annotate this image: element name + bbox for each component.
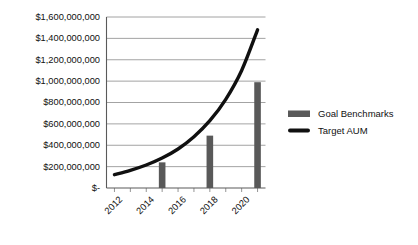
y-axis-tick-label: $1,200,000,000 (35, 55, 100, 65)
legend-line-swatch (288, 129, 310, 133)
legend-label-goal-benchmarks: Goal Benchmarks (318, 108, 394, 119)
y-axis-tick-label: $400,000,000 (43, 140, 100, 150)
legend-bar-swatch (288, 111, 310, 118)
y-axis-tick-label: $800,000,000 (43, 97, 100, 107)
goal-benchmark-bar (159, 162, 166, 188)
y-axis-tick-label: $1,000,000,000 (35, 76, 100, 86)
legend-label-target-aum: Target AUM (318, 125, 368, 136)
y-axis-tick-label: $- (92, 183, 100, 193)
y-axis-tick-label: $1,600,000,000 (35, 12, 100, 22)
y-axis-tick-label: $200,000,000 (43, 162, 100, 172)
goal-benchmark-bar (207, 136, 214, 188)
y-axis-tick-label: $600,000,000 (43, 119, 100, 129)
aum-growth-chart: $-$200,000,000$400,000,000$600,000,000$8… (0, 0, 418, 245)
y-axis-tick-label: $1,400,000,000 (35, 33, 100, 43)
goal-benchmark-bar (254, 82, 261, 188)
y-axis-tick-labels: $-$200,000,000$400,000,000$600,000,000$8… (35, 12, 100, 193)
chart-container: $-$200,000,000$400,000,000$600,000,000$8… (0, 0, 418, 245)
